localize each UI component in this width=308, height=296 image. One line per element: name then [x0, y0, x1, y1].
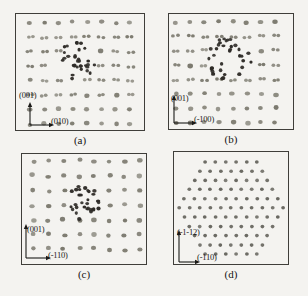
panel-a: (001) (010) (a)	[15, 13, 145, 146]
panel-b-frame: (001) (-100)	[168, 13, 294, 130]
panel-a-lattice-plot	[16, 14, 144, 130]
panel-d-lattice-plot	[174, 152, 288, 264]
panel-d-caption: (d)	[173, 269, 289, 280]
panel-c-lattice-plot	[22, 154, 146, 264]
panel-a-frame: (001) (010)	[15, 13, 145, 131]
panel-b: (001) (-100) (b)	[168, 13, 294, 145]
panel-b-lattice-plot	[169, 14, 293, 129]
panel-c: (001) (-110) (c)	[21, 153, 147, 280]
panel-c-frame: (001) (-110)	[21, 153, 147, 265]
panel-b-caption: (b)	[168, 134, 294, 145]
panel-d-frame: (-1-12) (-110)	[173, 151, 289, 265]
figure-atomic-projections: (001) (010) (a) (001) (-100) (b) (001) (…	[0, 0, 308, 296]
panel-d: (-1-12) (-110) (d)	[173, 151, 289, 280]
panel-a-caption: (a)	[15, 135, 145, 146]
panel-c-caption: (c)	[21, 269, 147, 280]
